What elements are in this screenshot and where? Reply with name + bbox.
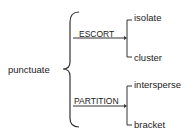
root-node-label: punctuate — [8, 64, 50, 75]
leaf-intersperse: intersperse — [134, 79, 181, 90]
branch-label-partition: PARTITION — [74, 96, 119, 107]
branch-label-escort: ESCORT — [79, 29, 114, 40]
leaf-cluster: cluster — [134, 52, 162, 63]
leaf-bracket: bracket — [134, 119, 165, 130]
leaf-isolate: isolate — [134, 12, 161, 23]
